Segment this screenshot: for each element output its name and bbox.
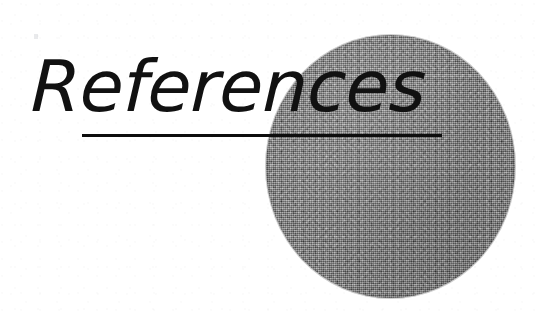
page-canvas: References [0,0,542,315]
heading-underline [82,134,442,137]
scan-speck [34,34,38,39]
page-title: References [30,51,427,122]
